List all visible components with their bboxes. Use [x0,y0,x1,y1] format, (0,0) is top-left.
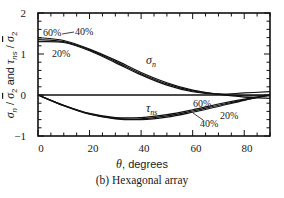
annotation-sigma-40: 40% [75,26,93,37]
xtick-label-20: 20 [88,142,100,154]
annotation-tau-60: 60% [193,98,211,109]
ytick-label-neg1: −1 [14,130,26,142]
ytick-label-2: 2 [21,7,27,19]
annotation-leader-tau-40 [193,113,203,120]
annotation-leader-sigma-40 [62,32,74,34]
annotation-sigma-n: σn [146,53,156,69]
ytick-label-0: 0 [21,89,27,101]
figure-caption: (b) Hexagonal array [96,174,189,187]
annotation-sigma-60: 60% [43,27,61,38]
x-axis-label: θ, degrees [116,157,168,171]
annotation-sigma-20: 20% [52,48,70,59]
xtick-label-40: 40 [139,142,151,154]
annotation-tau-ns: τns [146,101,157,117]
annotation-tau-20: 20% [220,110,238,121]
y-axis-label: σn / σ2 and τns / σ2 [3,31,19,118]
ytick-label-1: 1 [21,48,27,60]
chart-figure: 2 1 0 −1 0 20 40 60 80 σn / σ2 and τns /… [0,0,284,198]
xtick-label-60: 60 [191,142,203,154]
xtick-label-80: 80 [242,142,254,154]
xtick-label-0: 0 [38,142,44,154]
